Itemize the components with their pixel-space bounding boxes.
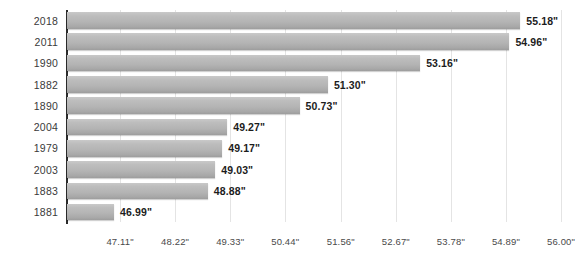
category-label-2003: 2003 (0, 164, 58, 176)
x-tick-label: 56.00" (547, 236, 575, 247)
x-tick-label: 51.56" (327, 236, 355, 247)
bar-rows-group: 201855.18"201154.96"199053.16"188251.30"… (0, 10, 572, 222)
bar-row[interactable]: 188348.88" (0, 180, 572, 201)
bar-container (67, 76, 328, 93)
x-tick-label: 50.44" (271, 236, 299, 247)
value-label-2004: 49.27" (233, 121, 265, 133)
category-label-2011: 2011 (0, 36, 58, 48)
x-tick-label: 47.11" (106, 236, 133, 247)
category-label-1979: 1979 (0, 142, 58, 154)
bar-1890[interactable] (67, 97, 300, 114)
category-label-1881: 1881 (0, 206, 58, 218)
bar-row[interactable]: 188146.99" (0, 202, 572, 223)
bar-container (67, 55, 420, 72)
category-label-2004: 2004 (0, 121, 58, 133)
x-axis-tick-labels: 47.11"48.22"49.33"50.44"51.56"52.67"53.7… (0, 236, 572, 256)
value-label-2003: 49.03" (221, 164, 253, 176)
bar-2018[interactable] (67, 12, 520, 29)
bar-row[interactable]: 189050.73" (0, 95, 572, 116)
bar-row[interactable]: 200349.03" (0, 159, 572, 180)
bar-1883[interactable] (67, 183, 208, 200)
bar-container (67, 12, 520, 29)
bar-2003[interactable] (67, 161, 215, 178)
bar-2011[interactable] (67, 33, 509, 50)
bar-row[interactable]: 201855.18" (0, 10, 572, 31)
bar-container (67, 161, 215, 178)
bar-container (67, 119, 227, 136)
x-tick-label: 53.78" (437, 236, 465, 247)
bar-container (67, 204, 114, 221)
bar-1990[interactable] (67, 55, 420, 72)
category-label-2018: 2018 (0, 15, 58, 27)
value-label-2018: 55.18" (526, 15, 558, 27)
bar-1881[interactable] (67, 204, 114, 221)
category-label-1990: 1990 (0, 57, 58, 69)
x-tick-label: 52.67" (382, 236, 410, 247)
bar-container (67, 140, 222, 157)
value-label-1881: 46.99" (120, 206, 152, 218)
x-tick-label: 49.33" (216, 236, 244, 247)
category-label-1883: 1883 (0, 185, 58, 197)
category-label-1882: 1882 (0, 79, 58, 91)
x-tick-label: 48.22" (161, 236, 189, 247)
bar-container (67, 183, 208, 200)
x-tick-label: 54.89" (492, 236, 520, 247)
value-label-1890: 50.73" (306, 100, 338, 112)
value-label-1882: 51.30" (334, 79, 366, 91)
bar-row[interactable]: 199053.16" (0, 53, 572, 74)
value-label-2011: 54.96" (515, 36, 547, 48)
bar-row[interactable]: 201154.96" (0, 31, 572, 52)
bar-2004[interactable] (67, 119, 227, 136)
bar-1882[interactable] (67, 76, 328, 93)
bar-container (67, 97, 300, 114)
bar-row[interactable]: 200449.27" (0, 117, 572, 138)
category-label-1890: 1890 (0, 100, 58, 112)
value-label-1990: 53.16" (426, 57, 458, 69)
value-label-1979: 49.17" (228, 142, 260, 154)
value-label-1883: 48.88" (214, 185, 246, 197)
bar-1979[interactable] (67, 140, 222, 157)
bar-row[interactable]: 197949.17" (0, 138, 572, 159)
bar-container (67, 33, 509, 50)
bar-row[interactable]: 188251.30" (0, 74, 572, 95)
